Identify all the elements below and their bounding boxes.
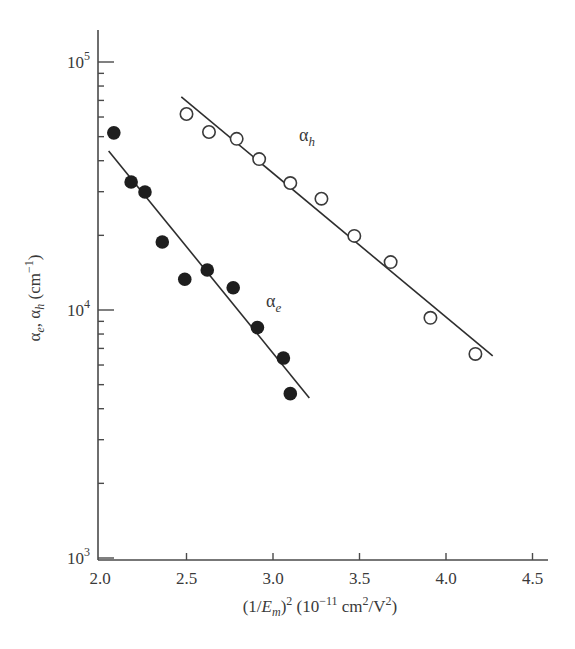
y-tick-label: 103 [67,545,90,568]
open-circle-marker [284,177,296,189]
filled-circle-marker [155,235,169,249]
x-tick-label: 3.0 [262,569,283,588]
open-circle-marker [469,348,481,360]
series-layer: αhαe [107,97,493,401]
series-label-e: αe [266,291,281,315]
y-axis-title: αe, αh (cm−1) [22,255,47,342]
filled-circle-marker [107,126,121,140]
x-tick-label: 4.5 [522,569,543,588]
filled-circle-marker [178,272,192,286]
x-tick-label: 2.0 [89,569,110,588]
x-tick-label: 4.0 [435,569,456,588]
chart: 103104105 2.02.53.03.54.04.5 αhαe (1/Em)… [0,0,575,649]
axes: 103104105 2.02.53.03.54.04.5 [67,30,548,588]
x-axis-title: (1/Em)2 (10−11 cm2/V2) [243,594,398,619]
filled-circle-marker [200,263,214,277]
x-tick-label: 2.5 [176,569,197,588]
filled-circle-marker [277,351,291,365]
y-tick-label: 105 [67,49,90,72]
open-circle-marker [253,153,265,165]
filled-circle-marker [124,175,138,189]
x-tick-label: 3.5 [349,569,370,588]
filled-circle-marker [138,185,152,199]
filled-circle-marker [226,281,240,295]
open-circle-marker [315,193,327,205]
open-circle-marker [424,312,436,324]
y-tick-label: 104 [67,297,90,320]
series-e: αe [107,126,309,400]
open-circle-marker [180,108,192,120]
x-ticks: 2.02.53.03.54.04.5 [89,553,543,588]
open-circle-marker [203,126,215,138]
filled-circle-marker [251,321,265,335]
series-label-h: αh [299,125,315,149]
filled-circle-marker [284,387,298,401]
y-ticks: 103104105 [67,49,114,568]
open-circle-marker [348,230,360,242]
fit-line-h [181,97,492,356]
series-h: αh [180,97,492,360]
open-circle-marker [384,256,396,268]
open-circle-marker [230,133,242,145]
